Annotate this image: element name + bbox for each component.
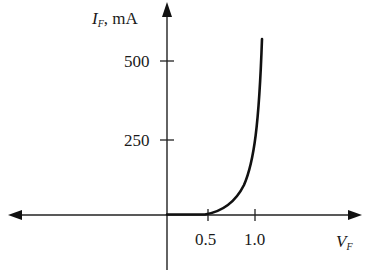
x-tick-label-0-5: 0.5 bbox=[195, 231, 216, 248]
y-axis-label-unit: , mA bbox=[104, 9, 138, 28]
x-axis-label: VF bbox=[336, 233, 353, 252]
x-axis-label-sub: F bbox=[346, 241, 352, 252]
x-tick-label-1-0: 1.0 bbox=[244, 231, 265, 248]
y-axis-arrow-icon bbox=[162, 2, 172, 17]
chart-canvas bbox=[0, 0, 366, 272]
y-tick-label-250: 250 bbox=[124, 132, 150, 149]
x-axis-right-arrow-icon bbox=[348, 210, 362, 220]
x-axis-left-arrow-icon bbox=[8, 210, 22, 220]
y-tick-label-500: 500 bbox=[124, 53, 150, 70]
diode-curve bbox=[167, 39, 262, 215]
x-axis-label-main: V bbox=[336, 232, 346, 251]
y-axis-label: IF, mA bbox=[92, 10, 138, 29]
